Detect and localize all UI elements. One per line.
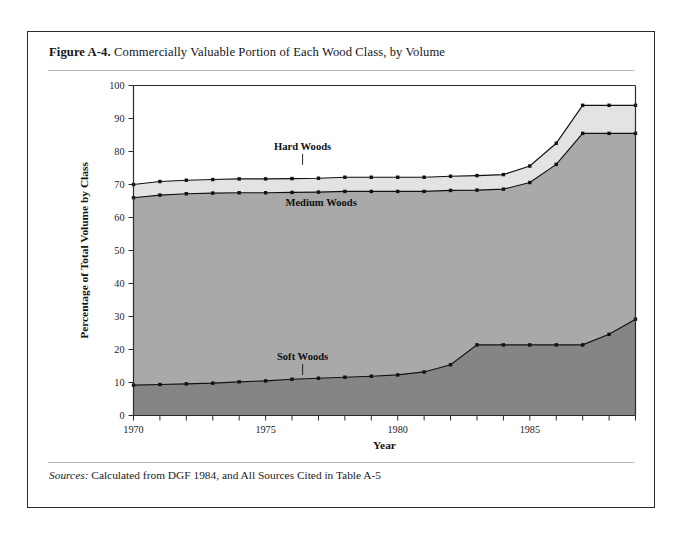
y-tick-label: 10 — [114, 377, 124, 388]
x-tick-label: 1985 — [520, 424, 540, 435]
y-tick-label: 90 — [114, 113, 124, 124]
x-axis-title: Year — [373, 439, 396, 451]
data-point-medium-woods — [449, 189, 452, 192]
series-label-soft-woods: Soft Woods — [277, 351, 328, 362]
y-axis-title: Percentage of Total Volume by Class — [78, 162, 90, 339]
data-point-medium-woods — [475, 188, 478, 191]
data-point-soft-woods — [449, 363, 452, 366]
data-point-soft-woods — [158, 383, 161, 386]
y-tick-label: 0 — [119, 410, 124, 421]
x-tick-label: 1980 — [388, 424, 408, 435]
data-point-medium-woods — [396, 190, 399, 193]
data-point-medium-woods — [422, 190, 425, 193]
data-point-soft-woods — [581, 343, 584, 346]
y-tick-label: 80 — [114, 146, 124, 157]
data-point-medium-woods — [502, 187, 505, 190]
data-point-medium-woods — [317, 190, 320, 193]
data-point-soft-woods — [528, 343, 531, 346]
data-point-hard-woods — [475, 174, 478, 177]
data-point-medium-woods — [607, 132, 610, 135]
data-point-medium-woods — [290, 191, 293, 194]
data-point-medium-woods — [185, 192, 188, 195]
data-point-soft-woods — [343, 376, 346, 379]
data-point-hard-woods — [502, 173, 505, 176]
y-tick-label: 50 — [114, 245, 124, 256]
data-point-soft-woods — [264, 379, 267, 382]
data-point-medium-woods — [237, 191, 240, 194]
data-point-medium-woods — [370, 190, 373, 193]
x-tick-label: 1975 — [255, 424, 275, 435]
data-point-hard-woods — [607, 104, 610, 107]
data-point-soft-woods — [237, 380, 240, 383]
data-point-soft-woods — [185, 382, 188, 385]
data-point-medium-woods — [581, 132, 584, 135]
data-point-medium-woods — [158, 193, 161, 196]
data-point-hard-woods — [449, 175, 452, 178]
data-point-soft-woods — [211, 381, 214, 384]
data-point-medium-woods — [555, 163, 558, 166]
data-point-soft-woods — [555, 343, 558, 346]
data-point-medium-woods — [211, 191, 214, 194]
data-point-medium-woods — [343, 190, 346, 193]
y-tick-label: 100 — [109, 80, 124, 91]
data-point-hard-woods — [185, 179, 188, 182]
data-point-hard-woods — [396, 176, 399, 179]
data-point-soft-woods — [317, 377, 320, 380]
series-label-hard-woods: Hard Woods — [274, 141, 331, 152]
y-tick-label: 60 — [114, 212, 124, 223]
y-tick-label: 30 — [114, 311, 124, 322]
y-tick-label: 20 — [114, 344, 124, 355]
data-point-hard-woods — [528, 164, 531, 167]
y-tick-label: 40 — [114, 278, 124, 289]
data-point-medium-woods — [528, 181, 531, 184]
series-label-medium-woods: Medium Woods — [285, 197, 356, 208]
data-point-hard-woods — [581, 104, 584, 107]
data-point-hard-woods — [237, 177, 240, 180]
data-point-soft-woods — [502, 343, 505, 346]
data-point-soft-woods — [422, 370, 425, 373]
data-point-hard-woods — [317, 177, 320, 180]
data-point-hard-woods — [264, 177, 267, 180]
y-tick-label: 70 — [114, 179, 124, 190]
data-point-soft-woods — [475, 343, 478, 346]
data-point-hard-woods — [555, 142, 558, 145]
data-point-hard-woods — [211, 178, 214, 181]
stacked-area-chart: 01020304050607080901001970197519801985Ye… — [0, 0, 683, 536]
x-tick-label: 1970 — [123, 424, 143, 435]
data-point-soft-woods — [396, 373, 399, 376]
data-point-medium-woods — [264, 191, 267, 194]
data-point-soft-woods — [290, 378, 293, 381]
data-point-hard-woods — [370, 176, 373, 179]
data-point-hard-woods — [422, 176, 425, 179]
data-point-hard-woods — [343, 176, 346, 179]
chart-plot-area: 01020304050607080901001970197519801985Ye… — [0, 0, 683, 536]
data-point-soft-woods — [607, 333, 610, 336]
data-point-hard-woods — [290, 177, 293, 180]
data-point-soft-woods — [370, 375, 373, 378]
data-point-hard-woods — [158, 180, 161, 183]
area-bands-group — [134, 105, 636, 415]
